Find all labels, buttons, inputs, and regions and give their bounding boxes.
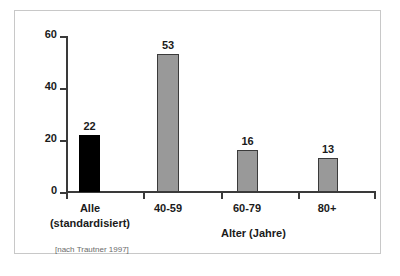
bar-chart-figure: 0 20 40 60 22 xyxy=(0,0,400,276)
x-tick-1 xyxy=(143,193,145,199)
figure-frame: 0 20 40 60 22 xyxy=(14,10,381,254)
bar-value-alle: 22 xyxy=(83,120,95,132)
x-tick-3 xyxy=(298,193,300,199)
y-tick-label-20: 20 xyxy=(45,132,57,144)
y-axis-line xyxy=(66,36,68,193)
x-category-label-alle-line2: (standardisiert) xyxy=(50,216,130,231)
x-category-label-60-79: 60-79 xyxy=(233,201,261,216)
y-tick-label-60: 60 xyxy=(45,28,57,40)
x-axis-title: Alter (Jahre) xyxy=(221,227,286,239)
source-note: [nach Trautner 1997] xyxy=(55,245,129,254)
x-tick-4 xyxy=(374,193,376,199)
x-tick-2 xyxy=(221,193,223,199)
bar-80-plus[interactable]: 13 xyxy=(318,158,338,192)
x-category-label-40-59: 40-59 xyxy=(154,201,182,216)
x-category-label-alle-line1: Alle xyxy=(50,201,130,216)
y-tick-label-40: 40 xyxy=(45,80,57,92)
bar-value-60-79: 16 xyxy=(241,135,253,147)
bar-60-79[interactable]: 16 xyxy=(237,150,258,192)
bar-40-59[interactable]: 53 xyxy=(157,54,179,192)
x-category-label-alle: Alle (standardisiert) xyxy=(50,201,130,231)
bar-alle-standardisiert[interactable]: 22 xyxy=(79,135,100,192)
bar-value-80-plus: 13 xyxy=(322,143,334,155)
x-category-label-80-plus: 80+ xyxy=(318,201,337,216)
x-tick-0 xyxy=(66,193,68,199)
y-tick-label-0: 0 xyxy=(51,184,57,196)
bar-value-40-59: 53 xyxy=(162,39,174,51)
plot-area: 0 20 40 60 22 xyxy=(66,36,376,192)
